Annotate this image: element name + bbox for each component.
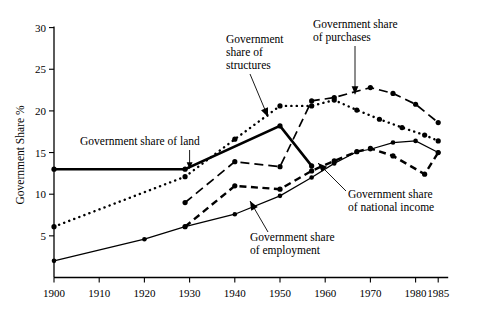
data-point (332, 161, 337, 166)
x-tick-label-1900: 1900 (43, 287, 66, 299)
chart-figure: 51015202530 1900191019201930194019501960… (0, 0, 496, 318)
series-line (54, 126, 312, 169)
data-point (377, 117, 382, 122)
x-tick-label-1980: 1980 (405, 287, 428, 299)
x-axis-tick-labels: 1900191019201930194019501960197019801985 (43, 287, 450, 299)
x-tick-label-1970: 1970 (359, 287, 382, 299)
series-government-share-of-land (51, 123, 314, 172)
y-tick-label-25: 25 (35, 63, 47, 75)
label-employment-line2: of employment (250, 244, 321, 257)
data-point (332, 95, 337, 100)
data-point (277, 164, 282, 169)
data-point (182, 167, 187, 172)
data-point (309, 103, 314, 108)
y-tick-label-15: 15 (35, 147, 47, 159)
series-layer (51, 85, 440, 263)
x-axis-ticks (54, 278, 438, 283)
x-tick-label-1930: 1930 (179, 287, 202, 299)
label-employment-line1: Government share (250, 231, 335, 243)
data-point (182, 200, 187, 205)
data-point (232, 159, 237, 164)
label-structures-line1: Government (226, 33, 284, 45)
y-tick-label-30: 30 (35, 22, 47, 34)
y-tick-label-5: 5 (41, 230, 47, 242)
data-point (390, 153, 395, 158)
data-point (368, 85, 373, 90)
x-tick-label-1920: 1920 (133, 287, 156, 299)
data-point (182, 174, 187, 179)
data-point (368, 147, 373, 152)
line-chart-canvas: 51015202530 1900191019201930194019501960… (0, 0, 496, 318)
data-point (278, 194, 283, 199)
data-point (51, 167, 56, 172)
data-point (309, 175, 314, 180)
y-tick-label-10: 10 (35, 188, 47, 200)
data-point (277, 103, 282, 108)
data-point (413, 139, 418, 144)
data-point (232, 183, 237, 188)
data-point (413, 102, 418, 107)
y-axis-title: Government Share % (14, 105, 26, 204)
data-point (309, 168, 314, 173)
label-national-income-line2: of national income (348, 201, 434, 213)
x-tick-label-1950: 1950 (269, 287, 292, 299)
y-tick-label-20: 20 (35, 105, 47, 117)
label-structures-line3: structures (226, 59, 271, 71)
label-national-income-line1: Government share (348, 188, 433, 200)
data-point (277, 187, 282, 192)
label-purchases-line2: of purchases (313, 31, 371, 44)
x-tick-label-1985: 1985 (427, 287, 450, 299)
data-point (51, 224, 56, 229)
y-axis-ticks (49, 28, 54, 236)
x-tick-label-1960: 1960 (314, 287, 337, 299)
data-point (52, 259, 57, 264)
label-purchases-line1: Government share (313, 18, 398, 30)
data-point (422, 172, 427, 177)
data-point (422, 132, 427, 137)
data-point (309, 163, 314, 168)
arrowhead-structures (261, 107, 268, 117)
label-structures-line2: share of (226, 46, 263, 58)
data-point (355, 149, 360, 154)
data-point (436, 138, 441, 143)
y-axis-tick-labels: 51015202530 (35, 22, 47, 242)
x-tick-label-1940: 1940 (224, 287, 247, 299)
data-point (309, 98, 314, 103)
data-point (233, 212, 238, 217)
data-point (354, 107, 359, 112)
data-point (436, 150, 441, 155)
x-tick-label-1910: 1910 (88, 287, 111, 299)
label-land: Government share of land (80, 135, 200, 147)
data-point (436, 120, 441, 125)
data-point (142, 237, 147, 242)
data-point (391, 140, 396, 145)
data-point (232, 137, 237, 142)
data-point (183, 224, 188, 229)
data-point (390, 91, 395, 96)
data-point (399, 125, 404, 130)
data-point (277, 123, 282, 128)
